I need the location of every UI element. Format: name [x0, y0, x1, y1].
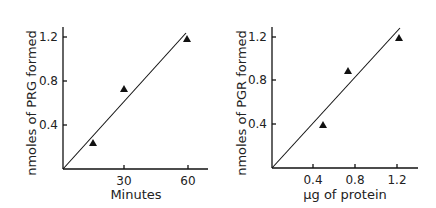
left-ytick-label: 1.2 — [39, 30, 58, 44]
triangle-marker — [344, 67, 352, 74]
right-fit-line — [272, 28, 400, 168]
left-fit-line — [63, 33, 186, 169]
triangle-marker — [319, 121, 327, 128]
left-ytick-label: 0.4 — [39, 118, 58, 132]
right-xtick-label: 0.4 — [303, 173, 322, 187]
right-chart: 0.4 0.8 1.2 0.4 0.8 1.2 μg of protein nm… — [234, 27, 418, 202]
right-xtick-label: 1.2 — [387, 173, 406, 187]
left-xtick-label: 60 — [180, 174, 195, 188]
right-y-axis-title: nmoles of PGR formed — [234, 30, 249, 176]
right-xtick-label: 0.8 — [345, 173, 364, 187]
left-ytick-label: 0.8 — [39, 74, 58, 88]
triangle-marker — [183, 35, 191, 42]
figure: 0.4 0.8 1.2 30 60 Minutes nmoles of PRG … — [0, 0, 436, 208]
right-x-axis-title: μg of protein — [303, 187, 387, 202]
triangle-marker — [395, 34, 403, 41]
triangle-marker — [120, 85, 128, 92]
left-y-axis-title: nmoles of PRG formed — [24, 30, 39, 176]
left-chart: 0.4 0.8 1.2 30 60 Minutes nmoles of PRG … — [24, 27, 208, 202]
left-x-axis-title: Minutes — [110, 187, 161, 202]
right-ytick-label: 0.4 — [248, 117, 267, 131]
right-ytick-label: 1.2 — [248, 30, 267, 44]
left-xtick-label: 30 — [116, 174, 131, 188]
right-ytick-label: 0.8 — [248, 73, 267, 87]
triangle-marker — [89, 139, 97, 146]
